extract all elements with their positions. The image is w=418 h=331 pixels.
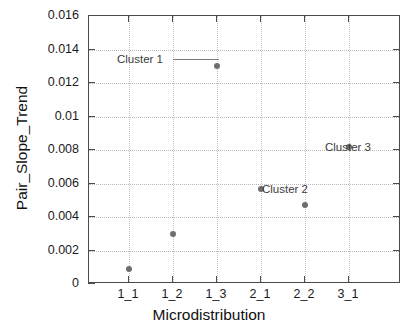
y-axis-title: Pair_Slope_Trend [13, 48, 31, 248]
gridline-y-0.006 [89, 184, 399, 185]
scatter-chart: Cluster 1 Cluster 2 Cluster 3 0 0.002 0.… [0, 0, 418, 331]
xtick-mark-1_1 [128, 276, 129, 283]
annotation-cluster-1-leader-line [173, 59, 219, 60]
gridline-x-2_2 [305, 16, 306, 282]
xtick-mark-1_2 [172, 276, 173, 283]
datapoint-2_2 [302, 202, 308, 208]
ytick-mark-0.004 [88, 216, 95, 217]
ytick-mark-right-0.006 [393, 183, 400, 184]
ytick-mark-right-0.004 [393, 216, 400, 217]
xtick-mark-3_1 [348, 276, 349, 283]
ytick-label-0.008: 0.008 [48, 143, 79, 156]
xtick-mark-top-1_1 [128, 15, 129, 22]
xtick-mark-2_2 [304, 276, 305, 283]
ytick-mark-right-0.014 [393, 49, 400, 50]
ytick-mark-right-0.002 [393, 250, 400, 251]
x-axis-title: Microdistribution [0, 306, 418, 324]
xtick-label-3_1: 3_1 [338, 288, 359, 301]
xtick-mark-top-2_1 [260, 15, 261, 22]
datapoint-1_3 [214, 63, 220, 69]
xtick-mark-top-1_2 [172, 15, 173, 22]
annotation-cluster-3: Cluster 3 [325, 142, 371, 154]
xtick-mark-top-1_3 [216, 15, 217, 22]
xtick-mark-top-2_2 [304, 15, 305, 22]
ytick-mark-0.002 [88, 250, 95, 251]
ytick-mark-right-0.008 [393, 149, 400, 150]
plot-area: Cluster 1 Cluster 2 Cluster 3 [88, 15, 400, 283]
gridline-y-0.014 [89, 50, 399, 51]
ytick-label-0: 0 [72, 277, 79, 290]
ytick-label-0.01: 0.01 [55, 110, 79, 123]
xtick-label-2_2: 2_2 [294, 288, 315, 301]
ytick-mark-right-0.01 [393, 116, 400, 117]
xtick-mark-2_1 [260, 276, 261, 283]
ytick-mark-0.012 [88, 82, 95, 83]
datapoint-1_2 [170, 231, 176, 237]
ytick-mark-0.016 [88, 15, 95, 16]
ytick-mark-0.006 [88, 183, 95, 184]
ytick-mark-right-0.012 [393, 82, 400, 83]
xtick-label-2_1: 2_1 [250, 288, 271, 301]
gridline-x-1_3 [217, 16, 218, 282]
xtick-mark-top-3_1 [348, 15, 349, 22]
ytick-mark-0 [88, 283, 95, 284]
xtick-label-1_3: 1_3 [206, 288, 227, 301]
ytick-label-0.004: 0.004 [48, 210, 79, 223]
xtick-mark-1_3 [216, 276, 217, 283]
gridline-y-0.01 [89, 117, 399, 118]
gridline-x-1_2 [173, 16, 174, 282]
gridline-y-0.002 [89, 251, 399, 252]
ytick-label-0.016: 0.016 [48, 9, 79, 22]
xtick-label-1_1: 1_1 [118, 288, 139, 301]
xtick-label-1_2: 1_2 [162, 288, 183, 301]
gridline-x-2_1 [261, 16, 262, 282]
gridline-y-0.004 [89, 217, 399, 218]
ytick-mark-0.008 [88, 149, 95, 150]
gridline-y-0.012 [89, 83, 399, 84]
annotation-cluster-2: Cluster 2 [262, 184, 308, 196]
ytick-mark-0.01 [88, 116, 95, 117]
annotation-cluster-1: Cluster 1 [117, 54, 163, 66]
ytick-label-0.014: 0.014 [48, 43, 79, 56]
ytick-label-0.012: 0.012 [48, 76, 79, 89]
ytick-label-0.002: 0.002 [48, 244, 79, 257]
datapoint-1_1 [126, 266, 132, 272]
ytick-mark-0.014 [88, 49, 95, 50]
ytick-label-0.006: 0.006 [48, 177, 79, 190]
